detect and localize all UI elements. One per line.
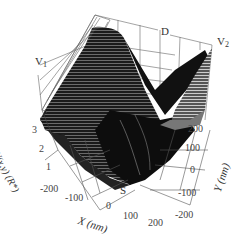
x-tick-200: 200 [148,218,163,228]
label-s: S [120,185,126,196]
y-tick-neg100: -100 [178,188,196,198]
label-v2: V2 [217,36,229,49]
label-v1: V1 [35,56,47,69]
x-tick-neg200: -200 [40,184,58,194]
y-tick-100: 100 [185,143,200,153]
z-tick-3: 3 [32,125,37,135]
x-tick-neg100: -100 [65,193,83,203]
x-tick-100: 100 [123,211,138,221]
z-tick-2: 2 [39,144,44,154]
y-tick-neg200: -200 [175,210,193,220]
label-d: D [161,26,169,37]
surface-plot [0,0,241,242]
y-tick-200: 200 [188,124,203,134]
y-tick-0: 0 [190,165,195,175]
z-tick-1: 1 [46,162,51,172]
x-tick-0: 0 [106,201,111,211]
